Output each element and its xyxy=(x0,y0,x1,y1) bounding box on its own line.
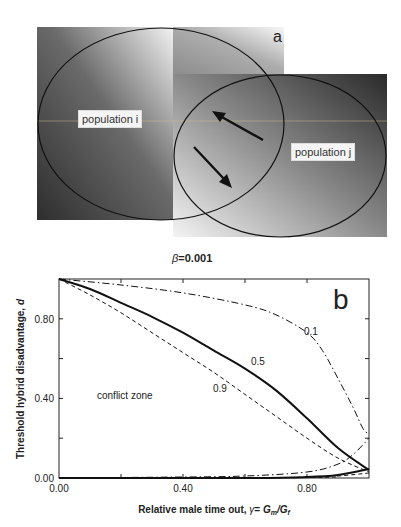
conflict-zone-annotation: conflict zone xyxy=(97,390,153,401)
panel-b: β=0.001 0.00 0.40 0.80 0.00 0.40 0.80 Th… xyxy=(15,252,369,516)
curve-0-5-lower- xyxy=(59,469,369,478)
region-i-fade xyxy=(173,27,284,74)
y-axis-label: Threshold hybrid disadvantage, d xyxy=(15,298,26,459)
x-tick-labels: 0.00 0.40 0.80 xyxy=(49,483,317,494)
svg-text:0.40: 0.40 xyxy=(173,483,193,494)
curve-0-1-lower- xyxy=(59,438,369,478)
axis-ticks xyxy=(59,279,369,478)
beta-title: β=0.001 xyxy=(171,252,212,264)
curve-label-0.9: 0.9 xyxy=(213,383,227,394)
curve-0-9-upper- xyxy=(59,279,369,472)
curve-0-1-upper- xyxy=(59,279,369,434)
curve-0-5-upper- xyxy=(59,279,369,470)
svg-text:0.80: 0.80 xyxy=(35,314,55,325)
svg-text:0.00: 0.00 xyxy=(49,483,69,494)
curve-label-0.1: 0.1 xyxy=(304,326,318,337)
curve-label-0.5: 0.5 xyxy=(251,356,265,367)
panel-a: a xyxy=(37,27,387,237)
population-i-label: population i xyxy=(78,110,142,128)
figure: a β=0.001 0.00 0.40 0.80 0.00 0.40 0.80 … xyxy=(0,0,401,527)
x-axis-label: Relative male time out, γ= Gm/Gf xyxy=(138,504,290,516)
plot-frame xyxy=(59,279,369,478)
curves xyxy=(59,279,369,478)
panel-b-label: b xyxy=(333,284,349,315)
svg-text:0.80: 0.80 xyxy=(297,483,317,494)
svg-text:0.40: 0.40 xyxy=(35,393,55,404)
panel-a-label: a xyxy=(273,28,282,45)
y-tick-labels: 0.00 0.40 0.80 xyxy=(35,314,55,484)
population-j-label: population j xyxy=(291,143,355,161)
